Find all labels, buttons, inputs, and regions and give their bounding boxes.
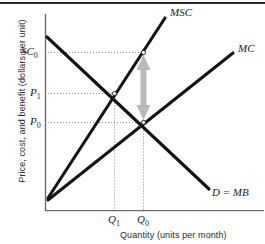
y-axis-title: Price, cost, and benefit (dollars per un… [17, 16, 27, 186]
curve-label-demand-mb: D = MB [212, 186, 249, 198]
externality-diagram-figure: SC0 P1 P0 Q1 Q0 MSC MC D = MB Price, cos… [0, 0, 265, 244]
curve-demand-mb [47, 37, 209, 189]
y-tick-label-p1: P1 [30, 86, 41, 101]
external-cost-arrow [137, 55, 151, 120]
x-tick-label-q1: Q1 [108, 213, 120, 228]
y-tick-label-p0: P0 [30, 115, 41, 130]
point-market-equilibrium [141, 120, 145, 124]
x-tick-label-q0: Q0 [137, 213, 149, 228]
point-social-cost-at-q0 [141, 50, 145, 54]
curve-label-mc: MC [238, 42, 255, 54]
point-efficient-equilibrium [112, 91, 116, 95]
curve-label-msc: MSC [170, 6, 192, 18]
x-axis-title: Quantity (units per month) [120, 230, 227, 240]
